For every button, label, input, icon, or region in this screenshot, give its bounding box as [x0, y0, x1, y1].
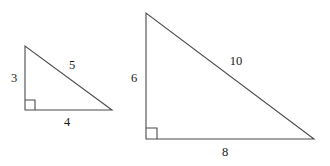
small-triangle-vertical-leg-label: 3 [11, 71, 17, 85]
small-right-triangle [25, 46, 112, 110]
large-right-triangle [146, 13, 314, 139]
small-triangle-outline [25, 46, 112, 110]
large-triangle-horizontal-leg-label: 8 [222, 145, 228, 159]
geometry-figure-canvas: 3 4 5 6 8 10 [0, 0, 330, 166]
large-triangle-vertical-leg-label: 6 [131, 71, 137, 85]
triangles-svg: 3 4 5 6 8 10 [0, 0, 330, 166]
large-triangle-right-angle-mark [146, 128, 157, 139]
large-triangle-outline [146, 13, 314, 139]
small-triangle-right-angle-mark [25, 100, 35, 110]
large-triangle-hypotenuse-label: 10 [230, 54, 243, 68]
small-triangle-hypotenuse-label: 5 [69, 58, 75, 72]
small-triangle-horizontal-leg-label: 4 [64, 115, 71, 129]
